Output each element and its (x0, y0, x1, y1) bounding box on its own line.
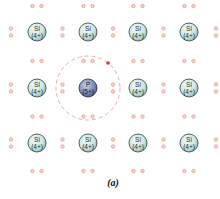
silicon-atom: Si(4+) (129, 79, 147, 97)
valence-electron (183, 169, 186, 172)
valence-electron (111, 34, 114, 37)
extra-electron (106, 61, 110, 65)
valence-electron (111, 83, 114, 86)
atoms: Si(4+)Si(4+)Si(4+)Si(4+)Si(4+)P(5+)Si(4+… (28, 23, 198, 152)
valence-electron (91, 169, 94, 172)
valence-electron (91, 59, 94, 62)
atom-charge: (4+) (183, 88, 195, 96)
valence-electron (9, 90, 12, 93)
valence-electron (40, 59, 43, 62)
atom-charge: (4+) (183, 143, 195, 151)
valence-electron (111, 27, 114, 30)
valence-electron (162, 27, 165, 30)
silicon-atom: Si(4+) (180, 134, 198, 152)
valence-electron (183, 4, 186, 7)
valence-electron (9, 145, 12, 148)
valence-electron (9, 138, 12, 141)
valence-electron (61, 83, 64, 86)
atom-charge: (4+) (82, 143, 94, 151)
valence-electron (162, 138, 165, 141)
valence-electron (141, 4, 144, 7)
valence-electron (214, 90, 217, 93)
atom-charge: (5+) (82, 88, 94, 96)
valence-electron (192, 4, 195, 7)
valence-electron (214, 145, 217, 148)
valence-electron (214, 34, 217, 37)
silicon-atom: Si(4+) (28, 23, 46, 41)
valence-electron (192, 169, 195, 172)
silicon-atom: Si(4+) (129, 23, 147, 41)
valence-electron (132, 59, 135, 62)
valence-electron (111, 138, 114, 141)
silicon-atom: Si(4+) (28, 134, 46, 152)
valence-electron (9, 83, 12, 86)
valence-electron (31, 59, 34, 62)
valence-electron (132, 115, 135, 118)
valence-electron (40, 115, 43, 118)
valence-electron (183, 115, 186, 118)
valence-electron (141, 115, 144, 118)
valence-electron (82, 4, 85, 7)
silicon-atom: Si(4+) (79, 134, 97, 152)
atom-charge: (4+) (132, 88, 144, 96)
figure-caption: (a) (107, 177, 119, 189)
silicon-atom: Si(4+) (180, 79, 198, 97)
valence-electron (82, 115, 85, 118)
valence-electron (132, 4, 135, 7)
valence-electron (31, 115, 34, 118)
valence-electron (82, 169, 85, 172)
valence-electron (111, 145, 114, 148)
atom-charge: (4+) (31, 88, 43, 96)
silicon-atom: Si(4+) (79, 23, 97, 41)
valence-electron (214, 83, 217, 86)
valence-electron (162, 90, 165, 93)
valence-electron (141, 59, 144, 62)
valence-electron (91, 115, 94, 118)
valence-electron (162, 83, 165, 86)
valence-electron (183, 59, 186, 62)
valence-electron (214, 138, 217, 141)
valence-electron (61, 138, 64, 141)
valence-electron (162, 34, 165, 37)
silicon-atom: Si(4+) (28, 79, 46, 97)
valence-electron (61, 145, 64, 148)
valence-electron (192, 59, 195, 62)
valence-electron (192, 115, 195, 118)
valence-electron (31, 4, 34, 7)
valence-electron (132, 169, 135, 172)
valence-electron (91, 4, 94, 7)
silicon-lattice-diagram: Si(4+)Si(4+)Si(4+)Si(4+)Si(4+)P(5+)Si(4+… (0, 0, 220, 199)
valence-electron (31, 169, 34, 172)
valence-electron (9, 27, 12, 30)
valence-electron (40, 4, 43, 7)
valence-electron (141, 169, 144, 172)
valence-electron (61, 27, 64, 30)
valence-electron (61, 90, 64, 93)
phosphorus-atom: P(5+) (79, 79, 97, 97)
atom-charge: (4+) (183, 32, 195, 40)
valence-electron (61, 34, 64, 37)
valence-electron (214, 27, 217, 30)
valence-electron (162, 145, 165, 148)
atom-charge: (4+) (132, 32, 144, 40)
atom-charge: (4+) (31, 32, 43, 40)
atom-charge: (4+) (31, 143, 43, 151)
valence-electron (9, 34, 12, 37)
atom-charge: (4+) (82, 32, 94, 40)
atom-charge: (4+) (132, 143, 144, 151)
silicon-atom: Si(4+) (129, 134, 147, 152)
valence-electron (82, 59, 85, 62)
silicon-atom: Si(4+) (180, 23, 198, 41)
valence-electron (40, 169, 43, 172)
valence-electron (111, 90, 114, 93)
